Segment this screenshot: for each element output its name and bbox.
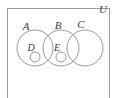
subset-label-d: D [26, 42, 35, 53]
universe-label: U [99, 3, 108, 15]
venn-diagram-figure: U A B C D E [0, 0, 116, 98]
set-label-b: B [55, 19, 62, 31]
subset-label-e: E [53, 42, 60, 53]
subset-circle-d [30, 52, 40, 62]
set-label-a: A [22, 20, 30, 32]
set-circle-c [67, 30, 103, 66]
set-circle-b [43, 30, 79, 66]
venn-diagram-canvas: U A B C D E [0, 0, 116, 98]
set-label-c: C [77, 18, 85, 30]
subset-circle-e [56, 52, 66, 62]
